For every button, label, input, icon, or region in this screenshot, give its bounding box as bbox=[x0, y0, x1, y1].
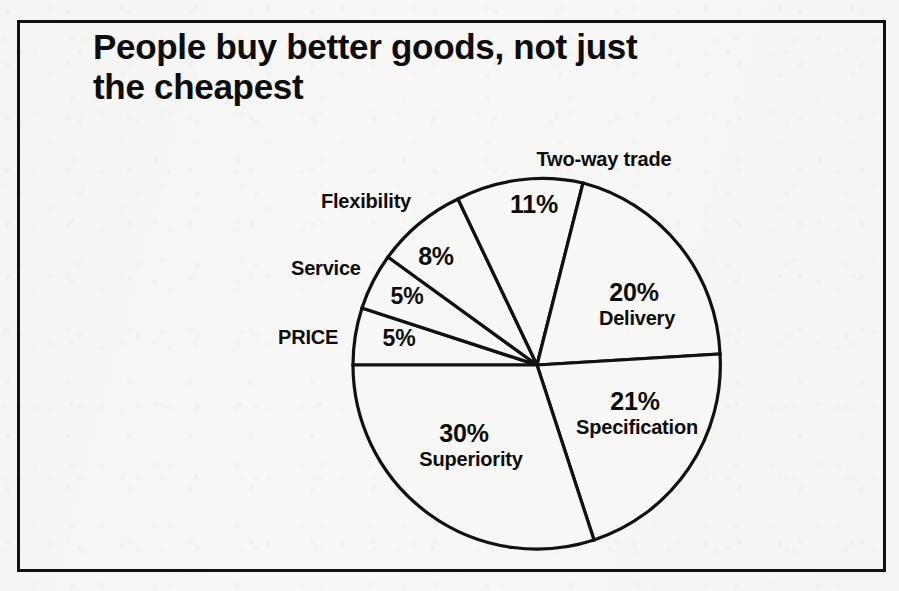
slice-value-delivery: 20% bbox=[609, 278, 658, 307]
slice-value-two-way-trade: 11% bbox=[510, 190, 558, 219]
slice-label-delivery: Delivery bbox=[599, 307, 675, 330]
figure-page: People buy better goods, not just the ch… bbox=[0, 0, 899, 591]
slice-value-flexibility: 8% bbox=[418, 242, 454, 271]
slice-label-flexibility: Flexibility bbox=[321, 190, 411, 213]
pie-chart bbox=[0, 0, 899, 591]
slice-label-price: PRICE bbox=[278, 326, 338, 349]
slice-value-specification: 21% bbox=[610, 387, 659, 416]
slice-value-superiority: 30% bbox=[439, 419, 488, 448]
slice-label-superiority: Superiority bbox=[419, 448, 522, 471]
slice-label-two-way-trade: Two-way trade bbox=[537, 148, 672, 171]
slice-value-price: 5% bbox=[383, 325, 416, 352]
slice-label-service: Service bbox=[291, 257, 361, 280]
slice-value-service: 5% bbox=[391, 283, 424, 310]
slice-label-specification: Specification bbox=[576, 416, 698, 439]
